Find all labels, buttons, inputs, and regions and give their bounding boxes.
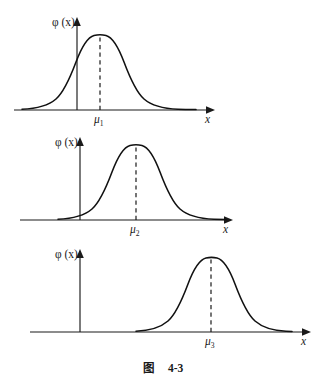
panel-1-mean-subscript: 1 <box>100 119 104 128</box>
panel-3-mean-label: μ3 <box>204 335 215 350</box>
normal-distribution-figure: φ (x) x μ1 φ (x) x μ2 <box>0 0 324 382</box>
panel-2-mean-subscript: 2 <box>136 229 140 238</box>
panel-1: φ (x) x μ1 <box>14 16 215 128</box>
panel-3-mean-subscript: 3 <box>211 341 215 350</box>
panel-2-x-axis-label: x <box>222 223 229 235</box>
panel-3-density-curve <box>136 257 292 331</box>
panel-3-y-axis-label: φ (x) <box>55 248 78 261</box>
caption-number: 4-3 <box>168 362 184 374</box>
panel-1-y-axis-label: φ (x) <box>52 16 75 29</box>
panel-2-y-axis-label: φ (x) <box>55 136 78 149</box>
panel-2-density-curve <box>58 145 226 220</box>
panel-3: φ (x) x μ3 <box>30 248 311 350</box>
panel-2: φ (x) x μ2 <box>20 136 233 238</box>
figure-caption: 图 4-3 <box>143 361 184 375</box>
panel-1-mean-label: μ1 <box>93 113 104 128</box>
figure-container: φ (x) x μ1 φ (x) x μ2 <box>0 0 324 382</box>
caption-label: 图 <box>143 361 154 375</box>
panel-1-density-curve <box>22 35 196 110</box>
panel-2-mean-label: μ2 <box>129 223 140 238</box>
panel-1-x-axis-label: x <box>204 113 211 125</box>
panel-3-x-axis-label: x <box>300 335 307 347</box>
